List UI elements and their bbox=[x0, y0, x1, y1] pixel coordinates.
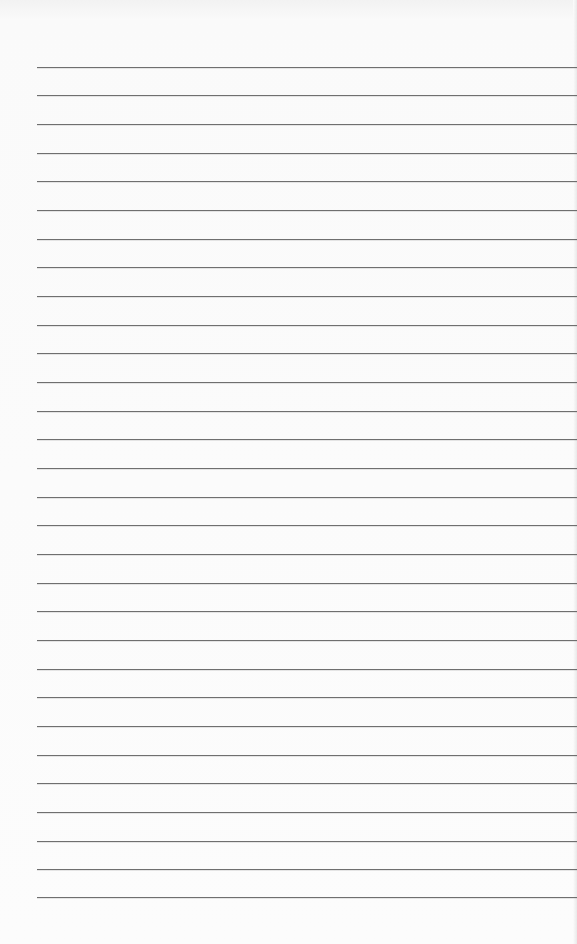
ruled-line bbox=[37, 669, 577, 670]
ruled-line bbox=[37, 897, 577, 898]
ruled-line bbox=[37, 67, 577, 68]
ruled-line bbox=[37, 640, 577, 641]
ruled-line bbox=[37, 153, 577, 154]
ruled-line bbox=[37, 439, 577, 440]
ruled-line bbox=[37, 325, 577, 326]
ruled-line bbox=[37, 554, 577, 555]
ruled-line bbox=[37, 497, 577, 498]
ruled-line bbox=[37, 296, 577, 297]
ruled-line bbox=[37, 210, 577, 211]
ruled-line bbox=[37, 181, 577, 182]
ruled-line bbox=[37, 411, 577, 412]
ruled-line bbox=[37, 239, 577, 240]
ruled-line bbox=[37, 869, 577, 870]
ruled-line bbox=[37, 783, 577, 784]
ruled-line bbox=[37, 841, 577, 842]
ruled-line bbox=[37, 812, 577, 813]
ruled-line bbox=[37, 95, 577, 96]
ruled-line bbox=[37, 124, 577, 125]
ruled-line bbox=[37, 583, 577, 584]
ruled-paper-page bbox=[0, 0, 577, 944]
ruled-line bbox=[37, 611, 577, 612]
ruled-line bbox=[37, 267, 577, 268]
ruled-line bbox=[37, 468, 577, 469]
ruled-line bbox=[37, 525, 577, 526]
ruled-line bbox=[37, 726, 577, 727]
ruled-line bbox=[37, 755, 577, 756]
ruled-line bbox=[37, 382, 577, 383]
paper-right-edge bbox=[573, 0, 577, 944]
ruled-line bbox=[37, 697, 577, 698]
ruled-line bbox=[37, 353, 577, 354]
